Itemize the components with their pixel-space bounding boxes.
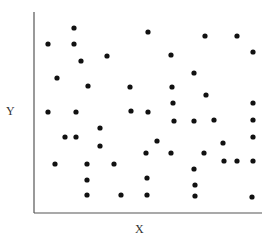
data-point bbox=[250, 158, 255, 163]
data-point bbox=[71, 25, 76, 30]
data-point bbox=[45, 109, 50, 114]
data-point bbox=[192, 193, 197, 198]
data-point bbox=[168, 150, 173, 155]
data-point bbox=[111, 161, 116, 166]
data-point bbox=[154, 138, 159, 143]
data-point bbox=[143, 150, 148, 155]
data-point bbox=[169, 84, 174, 89]
data-point bbox=[144, 192, 149, 197]
data-point bbox=[84, 161, 89, 166]
data-point bbox=[250, 134, 255, 139]
y-axis-label: Y bbox=[6, 104, 15, 119]
data-point bbox=[128, 108, 133, 113]
data-point bbox=[234, 158, 239, 163]
data-point bbox=[84, 177, 89, 182]
data-point bbox=[127, 84, 132, 89]
data-point bbox=[192, 182, 197, 187]
data-point bbox=[250, 117, 255, 122]
data-point bbox=[84, 192, 89, 197]
data-point bbox=[73, 134, 78, 139]
data-point bbox=[170, 100, 175, 105]
data-point bbox=[168, 52, 173, 57]
data-point bbox=[71, 41, 76, 46]
data-point bbox=[118, 192, 123, 197]
data-point bbox=[97, 143, 102, 148]
data-point bbox=[78, 58, 83, 63]
data-point bbox=[97, 125, 102, 130]
data-point bbox=[145, 29, 150, 34]
data-point bbox=[54, 75, 59, 80]
data-point bbox=[62, 134, 67, 139]
data-points bbox=[45, 25, 255, 199]
data-point bbox=[85, 83, 90, 88]
data-point bbox=[221, 158, 226, 163]
data-point bbox=[45, 41, 50, 46]
data-point bbox=[145, 109, 150, 114]
data-point bbox=[220, 140, 225, 145]
data-point bbox=[73, 109, 78, 114]
data-point bbox=[234, 33, 239, 38]
data-point bbox=[250, 100, 255, 105]
data-point bbox=[191, 70, 196, 75]
x-axis-label: X bbox=[135, 222, 144, 237]
data-point bbox=[104, 53, 109, 58]
data-point bbox=[191, 118, 196, 123]
data-point bbox=[144, 175, 149, 180]
data-point bbox=[201, 150, 206, 155]
data-point bbox=[250, 49, 255, 54]
data-point bbox=[171, 118, 176, 123]
data-point bbox=[249, 194, 254, 199]
data-point bbox=[52, 161, 57, 166]
scatter-plot bbox=[0, 0, 277, 248]
data-point bbox=[211, 117, 216, 122]
data-point bbox=[191, 166, 196, 171]
data-point bbox=[202, 33, 207, 38]
data-point bbox=[203, 92, 208, 97]
